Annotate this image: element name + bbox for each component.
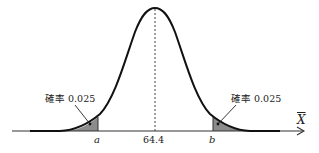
right-pointer-dot — [217, 123, 220, 126]
normal-curve-diagram — [0, 0, 319, 153]
axis-label-xbar: X — [297, 114, 306, 126]
a-label: a — [94, 135, 100, 145]
mean-label: 64.4 — [143, 135, 164, 145]
left-tail-label: 確率 0.025 — [45, 94, 95, 104]
left-pointer — [75, 105, 90, 124]
left-tail-value: 0.025 — [68, 93, 95, 104]
left-pointer-dot — [89, 123, 92, 126]
right-tail-prefix: 確率 — [231, 93, 251, 104]
right-tail-label: 確率 0.025 — [231, 94, 281, 104]
right-pointer — [218, 105, 236, 124]
right-tail-value: 0.025 — [254, 93, 281, 104]
b-label: b — [209, 135, 215, 145]
left-tail-prefix: 確率 — [45, 93, 65, 104]
